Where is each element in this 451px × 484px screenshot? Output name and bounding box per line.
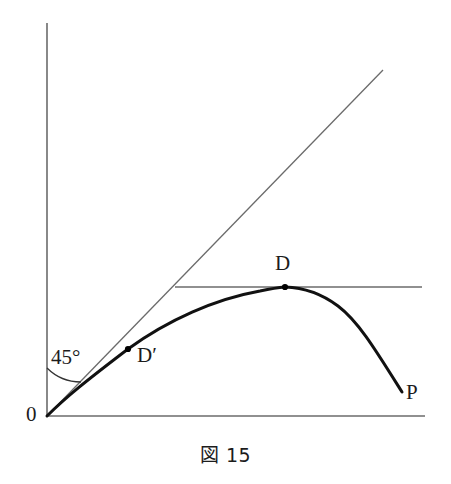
label-origin: 0 <box>26 404 37 425</box>
label-point-p: P <box>406 382 418 403</box>
label-point-d: D <box>275 253 290 274</box>
point-d-prime-marker <box>125 346 131 352</box>
curve-OP <box>47 287 402 416</box>
forty-five-degree-line <box>47 70 383 416</box>
figure-caption: 図 15 <box>0 440 451 467</box>
label-angle-45: 45° <box>51 347 80 368</box>
figure-canvas <box>0 0 451 484</box>
figure-container: 0 45° D′ D P 図 15 <box>0 0 451 484</box>
angle-arc-icon <box>47 368 81 382</box>
label-point-d-prime: D′ <box>137 345 157 366</box>
point-d-marker <box>282 284 288 290</box>
